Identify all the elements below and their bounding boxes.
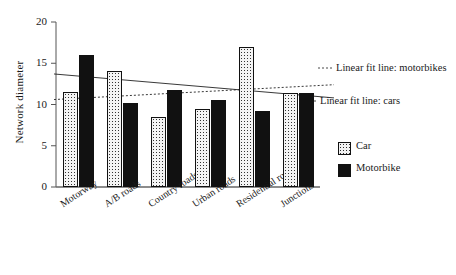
legend-label-motorbike: Motorbike [356,162,400,173]
bar-car-1 [107,71,122,187]
y-tick-label: 20 [25,15,47,27]
annotation-motorbike-fit: Linear fit line: motorbikes [336,62,447,73]
y-tick-label: 15 [25,56,47,68]
y-tick-label: 10 [25,98,47,110]
bar-car-0 [63,92,78,187]
bar-car-5 [283,93,298,187]
bar-motorbike-4 [255,111,270,187]
legend-swatch-motorbike [338,164,351,177]
legend-swatch-car [338,142,351,155]
bar-car-3 [195,109,210,187]
bar-motorbike-1 [123,103,138,187]
bar-motorbike-5 [299,93,314,187]
legend-label-car: Car [356,140,371,151]
y-tick-label: 5 [25,139,47,151]
bar-car-4 [239,47,254,187]
bar-car-2 [151,117,166,187]
y-tick-label: 0 [25,180,47,192]
labels-layer: 05101520MotorwayA/B roadsCountry roadsUr… [0,0,456,275]
bar-motorbike-2 [167,90,182,187]
annotation-car-fit: Linear fit line: cars [320,95,400,106]
bar-motorbike-3 [211,100,226,187]
bar-motorbike-0 [79,55,94,187]
bar-chart: Network diameter 05101520MotorwayA/B roa… [0,0,456,275]
